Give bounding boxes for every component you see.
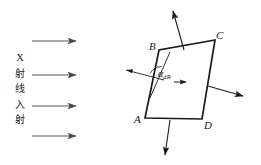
caption-char-2: 线 [15,81,25,97]
incident-beam-caption: X 射 线 入 射 [12,50,28,128]
xray-diffraction-diagram [0,0,261,165]
vertex-label-B: B [149,41,156,52]
figure-container: X 射 线 入 射 B C A D αdR [0,0,261,165]
diffracted-arrow-up [173,11,184,50]
vertex-label-C: C [216,30,223,41]
vertex-label-A: A [134,114,141,125]
incident-xray-arrows [32,41,76,136]
caption-char-0: X [16,50,23,66]
caption-char-3: 入 [15,97,25,113]
vertex-label-D: D [204,120,212,131]
ray-into-crystal-arrowhead [126,69,133,73]
angle-label: αdR [158,68,171,80]
diffracted-arrow-down [165,120,170,155]
diffracted-beam-arrows [165,11,243,155]
angle-subscript: dR [163,73,171,80]
caption-char-4: 射 [15,112,25,128]
caption-char-1: 射 [15,66,25,82]
diffracted-arrow-right [208,86,243,96]
